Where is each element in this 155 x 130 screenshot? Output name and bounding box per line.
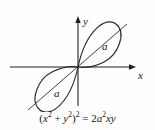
y-axis-arrow-icon [75,16,80,23]
plot-svg [0,0,155,112]
lemniscate-figure: y x a a (x2 + y2)2 = 2a2xy [0,0,155,130]
plot-area [0,0,155,112]
caption-equals: = [79,112,91,124]
caption-plus: + [52,112,64,124]
caption-tail: xy [106,112,116,124]
x-axis-arrow-icon [129,64,136,69]
equation-caption: (x2 + y2)2 = 2a2xy [0,110,155,125]
lower-lobe-parameter-label: a [54,88,60,99]
upper-lobe-parameter-label: a [102,41,108,52]
y-axis-label: y [83,16,88,27]
x-axis-label: x [138,70,143,81]
